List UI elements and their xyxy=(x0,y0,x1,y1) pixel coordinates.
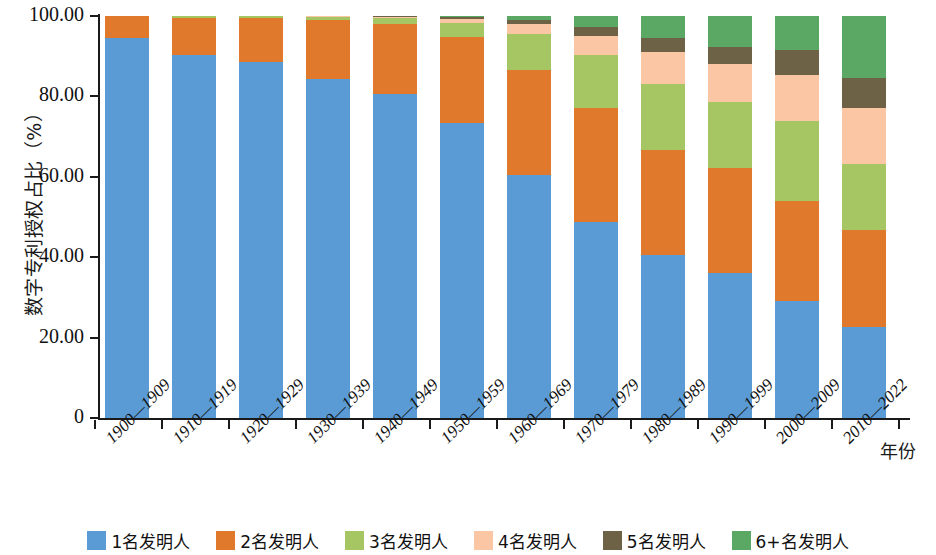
bar-segment xyxy=(708,64,752,102)
legend-item[interactable]: 2名发明人 xyxy=(216,528,319,553)
bar-segment xyxy=(708,16,752,47)
bar-1910—1919 xyxy=(172,16,216,418)
legend-swatch-icon xyxy=(87,531,106,550)
bar-1930—1939 xyxy=(306,16,350,418)
legend-item[interactable]: 4名发明人 xyxy=(474,528,577,553)
legend-label: 6+名发明人 xyxy=(756,528,849,553)
legend-swatch-icon xyxy=(345,531,364,550)
legend-item[interactable]: 3名发明人 xyxy=(345,528,448,553)
bar-segment xyxy=(775,201,819,301)
x-axis-title: 年份 xyxy=(880,437,916,463)
bar-segment xyxy=(239,62,283,418)
x-axis-tick xyxy=(898,420,900,429)
bar-segment xyxy=(775,16,819,50)
legend-item[interactable]: 6+名发明人 xyxy=(732,528,849,553)
y-axis-tick-label: 60.00 xyxy=(39,164,84,187)
y-axis-tick-label: 20.00 xyxy=(39,325,84,348)
bar-segment xyxy=(373,94,417,418)
bar-2000—2009 xyxy=(775,16,819,418)
x-axis-tick xyxy=(161,420,163,429)
bar-segment xyxy=(842,108,886,163)
legend-label: 5名发明人 xyxy=(627,528,706,553)
bar-1900—1909 xyxy=(105,16,149,418)
x-axis-tick xyxy=(94,420,96,429)
bar-segment xyxy=(172,55,216,418)
y-axis-tick-label: 0 xyxy=(74,405,84,428)
x-axis-tick xyxy=(697,420,699,429)
x-axis-tick xyxy=(295,420,297,429)
legend-swatch-icon xyxy=(732,531,751,550)
legend-label: 1名发明人 xyxy=(111,528,190,553)
legend-swatch-icon xyxy=(474,531,493,550)
chart-legend: 1名发明人2名发明人3名发明人4名发明人5名发明人6+名发明人 xyxy=(0,528,936,553)
bar-segment xyxy=(373,24,417,94)
x-axis-tick xyxy=(563,420,565,429)
bar-segment xyxy=(440,23,484,37)
bar-segment xyxy=(708,47,752,64)
bar-segment xyxy=(574,55,618,108)
legend-label: 3名发明人 xyxy=(369,528,448,553)
bar-segment xyxy=(574,16,618,27)
bar-segment xyxy=(507,34,551,71)
bar-segment xyxy=(708,102,752,168)
bar-segment xyxy=(641,16,685,38)
x-axis-tick xyxy=(429,420,431,429)
y-axis-tick-label: 40.00 xyxy=(39,244,84,267)
y-axis-tick-label: 100.00 xyxy=(29,3,84,26)
bar-segment xyxy=(842,78,886,108)
bar-1970—1979 xyxy=(574,16,618,418)
bar-1980—1989 xyxy=(641,16,685,418)
x-axis-tick xyxy=(630,420,632,429)
x-axis-tick xyxy=(362,420,364,429)
x-axis-tick xyxy=(228,420,230,429)
bar-segment xyxy=(507,70,551,175)
bar-segment xyxy=(239,18,283,62)
bar-segment xyxy=(306,20,350,79)
bar-1950—1959 xyxy=(440,16,484,418)
bar-segment xyxy=(105,16,149,38)
bar-segment xyxy=(306,79,350,418)
legend-label: 4名发明人 xyxy=(498,528,577,553)
bar-segment xyxy=(440,123,484,418)
bar-segment xyxy=(641,38,685,52)
x-axis-tick xyxy=(496,420,498,429)
bar-segment xyxy=(574,108,618,222)
bar-1940—1949 xyxy=(373,16,417,418)
bar-segment xyxy=(708,168,752,273)
bar-segment xyxy=(507,175,551,418)
bar-segment xyxy=(641,150,685,255)
x-axis-tick xyxy=(764,420,766,429)
bar-segment xyxy=(775,75,819,121)
plot-area xyxy=(98,16,908,418)
legend-swatch-icon xyxy=(216,531,235,550)
bar-segment xyxy=(172,18,216,55)
bar-segment xyxy=(641,52,685,83)
bar-1960—1969 xyxy=(507,16,551,418)
bar-segment xyxy=(775,50,819,75)
y-axis-tick-label: 80.00 xyxy=(39,83,84,106)
legend-item[interactable]: 1名发明人 xyxy=(87,528,190,553)
bar-segment xyxy=(775,121,819,201)
legend-item[interactable]: 5名发明人 xyxy=(603,528,706,553)
bar-segment xyxy=(574,36,618,55)
bar-segment xyxy=(842,164,886,230)
bar-segment xyxy=(574,27,618,35)
bar-segment xyxy=(105,38,149,418)
legend-label: 2名发明人 xyxy=(240,528,319,553)
bar-segment xyxy=(842,16,886,78)
bar-segment xyxy=(842,230,886,327)
bar-segment xyxy=(440,37,484,123)
legend-swatch-icon xyxy=(603,531,622,550)
bar-segment xyxy=(507,24,551,34)
bar-1990—1999 xyxy=(708,16,752,418)
bar-1920—1929 xyxy=(239,16,283,418)
x-axis-tick xyxy=(831,420,833,429)
stacked-bar-chart: 数字专利授权占比（%） 020.0040.0060.0080.00100.00 … xyxy=(0,0,936,555)
bar-segment xyxy=(641,84,685,150)
bar-2010—2022 xyxy=(842,16,886,418)
bar-segment xyxy=(574,222,618,418)
